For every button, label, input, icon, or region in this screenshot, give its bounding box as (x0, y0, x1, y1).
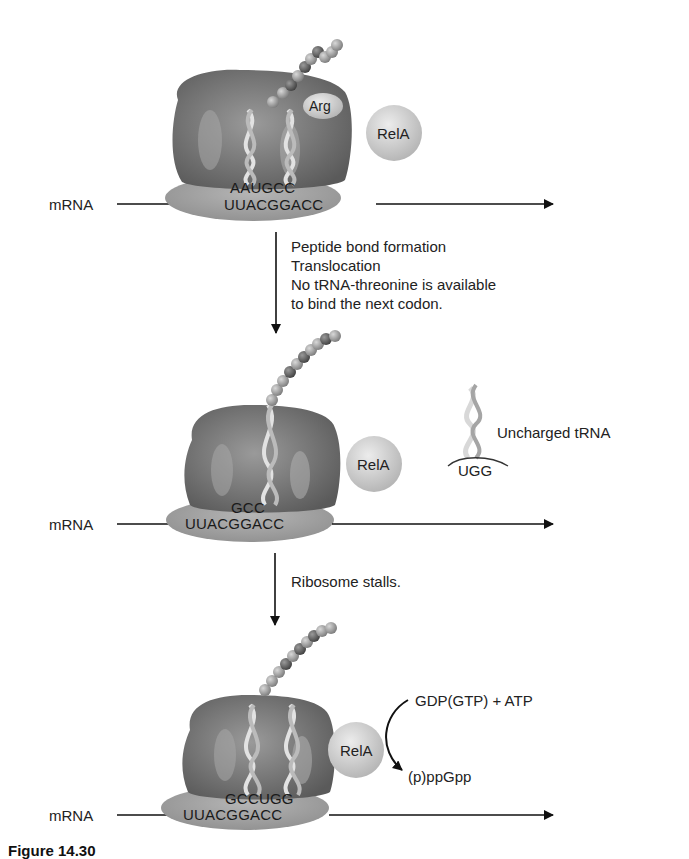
step-1-text: Peptide bond formation Translocation No … (291, 237, 496, 313)
step-1-line-1: Peptide bond formation (291, 237, 496, 256)
reaction-substrates: GDP(GTP) + ATP (415, 692, 533, 709)
arg-label: Arg (309, 98, 331, 115)
trna-anticodons: GCC (231, 500, 265, 515)
step-1-line-4: to bind the next codon. (291, 294, 496, 313)
mrna-label: mRNA (49, 196, 93, 213)
figure-caption: Figure 14.30 (8, 842, 96, 859)
step-2-text: Ribosome stalls. (291, 572, 401, 591)
mrna-sequence: UUACGGACC (183, 807, 282, 822)
uncharged-trna-label: Uncharged tRNA (497, 424, 610, 441)
panel-2 (117, 330, 553, 542)
reaction-arrow (386, 700, 408, 770)
mrna-label: mRNA (49, 807, 93, 824)
mrna-label: mRNA (49, 516, 93, 533)
panel-1 (117, 39, 553, 221)
rela-label: RelA (340, 742, 373, 759)
mrna-sequence: UUACGGACC (185, 516, 284, 531)
step-1-line-2: Translocation (291, 256, 496, 275)
peptide-chain (266, 330, 341, 406)
step-2-line-1: Ribosome stalls. (291, 572, 401, 591)
uncharged-trna-anticodon: UGG (458, 462, 492, 479)
reaction-product: (p)ppGpp (408, 768, 471, 785)
panel-3 (117, 622, 553, 830)
trna-anticodons: AAUGCC (230, 180, 295, 195)
trna-anticodons: GCCUGG (225, 791, 294, 806)
mrna-sequence: UUACGGACC (224, 197, 323, 212)
rela-label: RelA (357, 456, 390, 473)
peptide-chain (259, 622, 337, 696)
step-1-line-3: No tRNA-threonine is available (291, 275, 496, 294)
rela-label: RelA (377, 125, 410, 142)
